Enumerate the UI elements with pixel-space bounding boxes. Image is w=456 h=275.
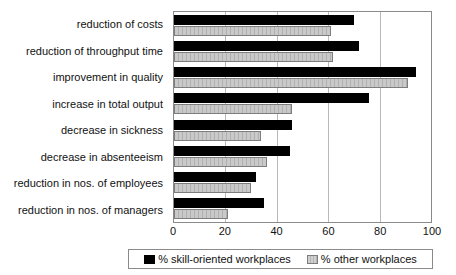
bar <box>174 198 264 208</box>
x-tick-label: 40 <box>270 224 282 238</box>
bar <box>174 120 292 130</box>
x-tick-label: 100 <box>423 224 441 238</box>
bar <box>174 52 333 62</box>
bar-group <box>174 143 431 169</box>
bar-group <box>174 117 431 143</box>
bar-group <box>174 170 431 196</box>
legend-entry-primary: % skill-oriented workplaces <box>144 253 291 265</box>
value-axis: 020406080100 <box>173 224 432 240</box>
category-label: reduction in nos. of employees <box>0 170 168 197</box>
bar <box>174 146 290 156</box>
plot-area <box>173 11 432 223</box>
bar <box>174 93 369 103</box>
bar <box>174 209 228 219</box>
chart-legend: % skill-oriented workplaces % other work… <box>128 249 433 269</box>
x-tick-label: 20 <box>219 224 231 238</box>
x-tick-label: 60 <box>322 224 334 238</box>
category-label: decrease in absenteeism <box>0 144 168 171</box>
x-tick-label: 0 <box>170 224 176 238</box>
bar <box>174 26 331 36</box>
bar <box>174 172 256 182</box>
legend-entry-secondary: % other workplaces <box>307 253 417 265</box>
bar <box>174 41 359 51</box>
black-square-icon <box>144 255 155 264</box>
x-tick-label: 80 <box>374 224 386 238</box>
bars-layer <box>174 12 431 222</box>
bar-group <box>174 196 431 222</box>
bar <box>174 104 292 114</box>
bar <box>174 131 261 141</box>
legend-label: % skill-oriented workplaces <box>158 253 291 265</box>
category-label: reduction of throughput time <box>0 38 168 65</box>
category-label: decrease in sickness <box>0 117 168 144</box>
legend-label: % other workplaces <box>321 253 417 265</box>
category-label: improvement in quality <box>0 64 168 91</box>
bar <box>174 67 416 77</box>
bar-chart: reduction of costs reduction of throughp… <box>0 0 456 275</box>
category-label: reduction of costs <box>0 11 168 38</box>
bar <box>174 78 408 88</box>
bar <box>174 15 354 25</box>
gray-hatched-square-icon <box>307 255 318 264</box>
category-axis: reduction of costs reduction of throughp… <box>0 11 168 223</box>
bar-group <box>174 38 431 64</box>
bar <box>174 157 267 167</box>
bar-group <box>174 12 431 38</box>
bar-group <box>174 91 431 117</box>
bar <box>174 183 251 193</box>
category-label: reduction in nos. of managers <box>0 197 168 224</box>
bar-group <box>174 65 431 91</box>
category-label: increase in total output <box>0 91 168 118</box>
